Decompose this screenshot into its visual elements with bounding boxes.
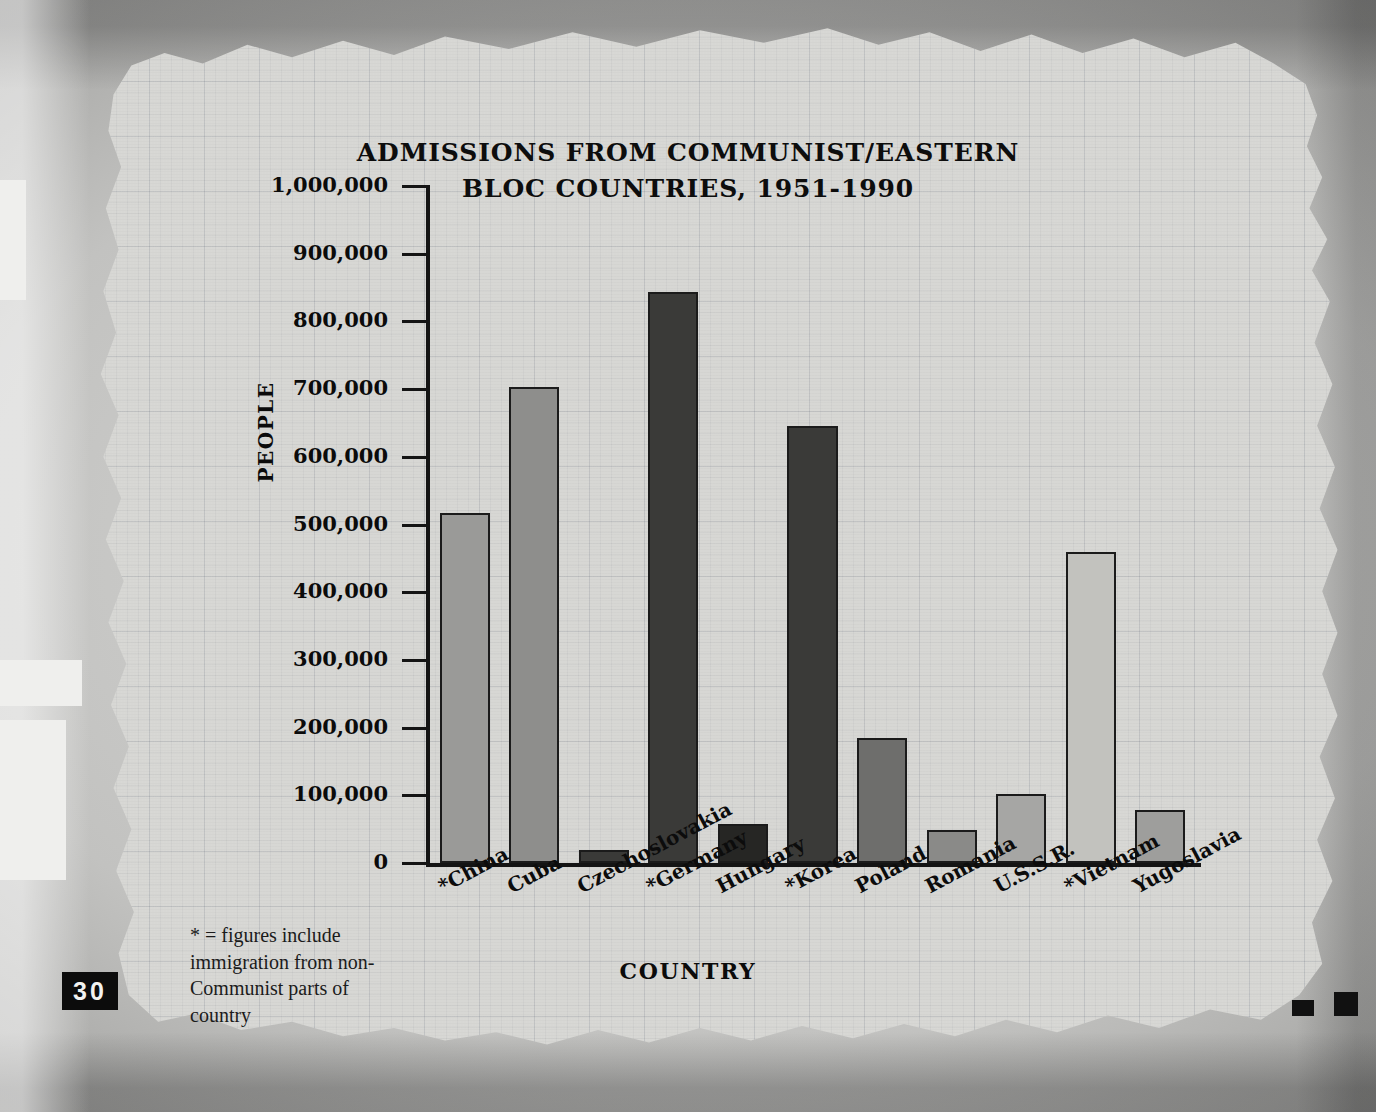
- page-number-badge: 30: [62, 972, 118, 1010]
- bar-korea: [787, 426, 837, 863]
- y-tick-label: 800,000: [238, 307, 388, 332]
- y-tick-label: 200,000: [238, 714, 388, 739]
- y-tick-label: 0: [238, 849, 388, 874]
- y-tick-label: 500,000: [238, 511, 388, 536]
- bar-cuba: [509, 387, 559, 863]
- y-tick-mark: [402, 727, 430, 730]
- y-tick-label: 700,000: [238, 375, 388, 400]
- y-tick-mark: [402, 388, 430, 391]
- y-tick-mark: [402, 320, 430, 323]
- y-tick-mark: [402, 862, 430, 865]
- y-tick-label: 1,000,000: [238, 172, 388, 197]
- y-tick-mark: [402, 253, 430, 256]
- bar-china: [440, 513, 490, 863]
- footnote-text: * = figures include immigration from non…: [190, 922, 405, 1028]
- y-tick-mark: [402, 185, 430, 188]
- y-tick-mark: [402, 659, 430, 662]
- bar-germany: [648, 292, 698, 863]
- y-tick-label: 300,000: [238, 646, 388, 671]
- registration-mark-left: [1292, 1000, 1314, 1016]
- y-tick-label: 400,000: [238, 578, 388, 603]
- y-axis-line: [426, 186, 430, 867]
- y-tick-label: 600,000: [238, 443, 388, 468]
- registration-mark-right: [1334, 992, 1358, 1016]
- chart-title-line-1: ADMISSIONS FROM COMMUNIST/EASTERN: [0, 138, 1376, 167]
- y-tick-mark: [402, 456, 430, 459]
- y-tick-mark: [402, 794, 430, 797]
- chart-title-line-2: BLOC COUNTRIES, 1951-1990: [0, 174, 1376, 203]
- y-tick-label: 900,000: [238, 240, 388, 265]
- bar-vietnam: [1066, 552, 1116, 863]
- y-tick-mark: [402, 591, 430, 594]
- bar-poland: [857, 738, 907, 863]
- y-tick-label: 100,000: [238, 781, 388, 806]
- y-tick-mark: [402, 524, 430, 527]
